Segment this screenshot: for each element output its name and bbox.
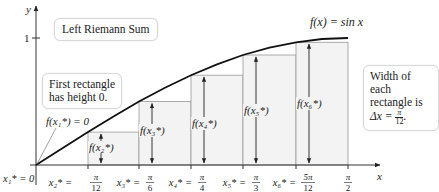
x-tick-1: x₁* = 0: [2, 173, 35, 184]
first-height-label: f(x₁*) = 0: [46, 115, 90, 128]
x-tick-3-lhs: x₃* =: [116, 177, 140, 188]
x-tick-6-lhs: x₆* =: [272, 177, 296, 188]
svg-text:3: 3: [254, 183, 259, 192]
width-line-2: rectangle is: [370, 96, 432, 109]
y-axis-label: y: [25, 3, 31, 15]
svg-text:4: 4: [200, 183, 205, 192]
svg-text:2: 2: [346, 183, 351, 192]
svg-text:6: 6: [148, 183, 153, 192]
x-tick-5-lhs: x₅* =: [222, 177, 246, 188]
svg-text:12: 12: [92, 183, 101, 192]
width-line-1: Width of each: [370, 70, 432, 96]
height-label-6: f(x₆*): [297, 97, 322, 110]
title-text: Left Riemann Sum: [62, 23, 150, 35]
svg-text:12: 12: [304, 183, 313, 192]
svg-text:π: π: [200, 172, 205, 182]
first-rectangle-note: First rectangle has height 0.: [42, 73, 122, 109]
title-box: Left Riemann Sum: [54, 18, 158, 41]
svg-text:5π: 5π: [303, 172, 313, 182]
height-label-2: f(x₂*): [89, 141, 114, 154]
x-tick-4-lhs: x₄* =: [168, 177, 192, 188]
note-line-1: First rectangle: [49, 78, 115, 91]
height-label-5: f(x₅*): [244, 104, 269, 117]
svg-text:π: π: [148, 172, 153, 182]
svg-text:π: π: [94, 172, 99, 182]
svg-text:π: π: [346, 172, 351, 182]
svg-text:π: π: [254, 172, 259, 182]
function-label: f(x) = sin x: [310, 15, 364, 29]
y-tick-label: 1: [24, 32, 30, 44]
width-line-3: Δx = π12.: [370, 109, 432, 126]
height-label-4: f(x₄*): [192, 117, 217, 130]
x-tick-labels: x₁* = 0 x₂* = π 12 x₃* = π 6 x₄* = π 4 x…: [2, 172, 352, 192]
x-tick-2-lhs: x₂* =: [48, 177, 72, 188]
note-line-2: has height 0.: [49, 91, 115, 104]
height-label-3: f(x₃*): [140, 124, 165, 137]
x-axis-label: x: [376, 170, 382, 182]
width-note: Width of each rectangle is Δx = π12.: [363, 65, 439, 131]
